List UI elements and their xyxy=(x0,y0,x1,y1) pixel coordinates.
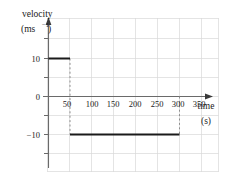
y-axis-unit-close: ) xyxy=(48,24,51,35)
x-axis-title: time xyxy=(198,101,215,111)
velocity-time-chart: 10 0 −10 50 100 150 200 250 300 350 velo… xyxy=(0,0,227,180)
x-axis-unit: (s) xyxy=(201,116,211,127)
x-tick-label-250: 250 xyxy=(151,99,164,109)
chart-svg: 10 0 −10 50 100 150 200 250 300 350 velo… xyxy=(0,0,227,180)
x-tick-label-100: 100 xyxy=(86,99,99,109)
x-tick-label-50: 50 xyxy=(63,99,72,109)
x-tick-label-300: 300 xyxy=(172,99,185,109)
x-tick-label-200: 200 xyxy=(129,99,142,109)
y-axis-title: velocity xyxy=(22,9,53,19)
y-tick-label-minus-10: −10 xyxy=(27,130,40,140)
y-axis-unit-base: (ms xyxy=(21,24,36,35)
y-tick-label-0: 0 xyxy=(36,92,40,102)
y-tick-label-10: 10 xyxy=(32,54,41,64)
x-tick-label-150: 150 xyxy=(107,99,120,109)
